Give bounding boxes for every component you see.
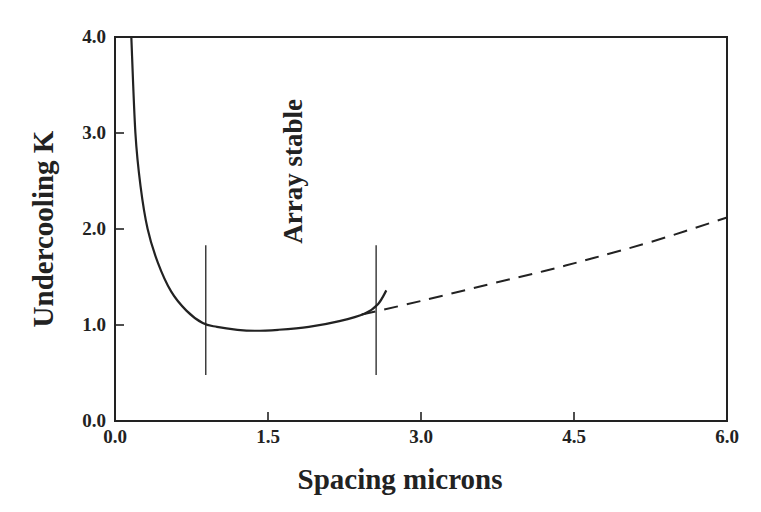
y-axis-ticks: 0.01.02.03.04.0 — [82, 26, 124, 431]
plot-border — [115, 37, 727, 421]
dashed-extension-curve — [362, 217, 727, 314]
data-series — [131, 37, 727, 331]
x-tick-label: 4.5 — [562, 426, 586, 447]
x-tick-label: 1.5 — [256, 426, 280, 447]
y-tick-label: 4.0 — [82, 26, 106, 47]
y-axis-title: Undercooling K — [27, 130, 59, 327]
plot-frame — [115, 37, 727, 421]
y-tick-label: 2.0 — [82, 218, 106, 239]
x-tick-label: 0.0 — [103, 426, 127, 447]
stability-boundary-markers — [206, 245, 376, 375]
x-tick-label: 3.0 — [409, 426, 433, 447]
x-axis-title: Spacing microns — [298, 463, 503, 495]
array-stable-annotation: Array stable — [279, 99, 309, 244]
x-axis-ticks: 0.01.53.04.56.0 — [103, 412, 739, 447]
y-tick-label: 1.0 — [82, 314, 106, 335]
chart: 0.01.02.03.04.0 0.01.53.04.56.0 Spacing … — [0, 0, 761, 512]
y-tick-label: 3.0 — [82, 122, 106, 143]
undercooling-curve — [131, 37, 386, 331]
x-tick-label: 6.0 — [715, 426, 739, 447]
